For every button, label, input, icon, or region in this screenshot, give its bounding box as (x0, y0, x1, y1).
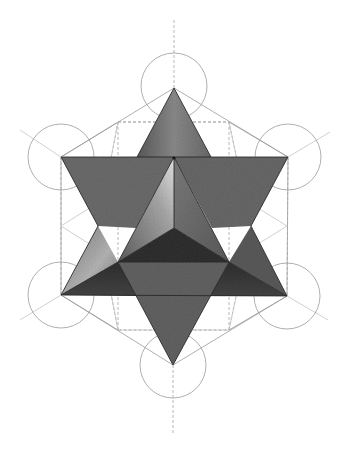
diag-axis-ul (20, 130, 61, 157)
center-point (172, 156, 175, 159)
guide-ul-diag (61, 122, 118, 157)
diag-axis-ll (20, 295, 61, 320)
diag-axis-lr (287, 296, 328, 320)
star-tetrahedron-illustration (0, 0, 346, 458)
guide-lr-diag (229, 296, 287, 330)
guide-ur-diag (229, 122, 288, 157)
top-pyramid-tip (137, 88, 211, 157)
merkaba-solid (61, 88, 288, 365)
guide-ll-diag (61, 295, 118, 330)
bottom-pyramid (118, 262, 229, 365)
diag-axis-ur (288, 132, 330, 157)
